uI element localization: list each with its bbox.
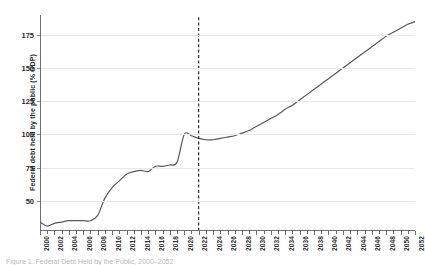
- x-tick-2024: [213, 231, 214, 235]
- x-tick-2047: [379, 231, 380, 234]
- x-tick-2011: [119, 231, 120, 234]
- x-tick-label-2038: 2038: [317, 236, 324, 251]
- x-tick-2006: [83, 231, 84, 235]
- x-tick-2027: [235, 231, 236, 234]
- x-tick-label-2012: 2012: [129, 236, 136, 251]
- y-major-tick-75: [37, 168, 40, 169]
- plot-area: [40, 15, 415, 230]
- y-tick-label-150: 150: [8, 64, 34, 73]
- x-tick-2001: [47, 231, 48, 234]
- x-tick-2035: [292, 231, 293, 234]
- gridline-125: [41, 101, 415, 102]
- x-tick-2026: [228, 231, 229, 235]
- y-tick-label-75: 75: [8, 163, 34, 172]
- y-tick-label-100: 100: [8, 130, 34, 139]
- x-tick-2041: [336, 231, 337, 234]
- x-tick-label-2000: 2000: [43, 236, 50, 251]
- x-tick-label-2026: 2026: [230, 236, 237, 251]
- x-tick-2012: [127, 231, 128, 235]
- x-tick-2048: [386, 231, 387, 235]
- gridline-175: [41, 35, 415, 36]
- x-tick-2023: [206, 231, 207, 234]
- x-tick-2039: [321, 231, 322, 234]
- x-tick-2014: [141, 231, 142, 235]
- x-tick-2000: [40, 231, 41, 235]
- gridline-100: [41, 134, 415, 135]
- x-tick-label-2046: 2046: [374, 236, 381, 251]
- x-tick-label-2034: 2034: [288, 236, 295, 251]
- y-tick-label-175: 175: [8, 30, 34, 39]
- x-tick-label-2006: 2006: [86, 236, 93, 251]
- x-tick-2032: [271, 231, 272, 235]
- x-tick-label-2004: 2004: [71, 236, 78, 251]
- gridline-150: [41, 68, 415, 69]
- x-tick-2007: [90, 231, 91, 234]
- x-tick-2008: [98, 231, 99, 235]
- x-tick-2021: [191, 231, 192, 234]
- x-tick-2037: [307, 231, 308, 234]
- y-tick-label-125: 125: [8, 97, 34, 106]
- x-tick-2022: [199, 231, 200, 235]
- x-tick-label-2002: 2002: [57, 236, 64, 251]
- figure-caption: Figure 1. Federal Debt Held by the Publi…: [6, 258, 416, 265]
- x-tick-2025: [220, 231, 221, 234]
- x-tick-label-2020: 2020: [187, 236, 194, 251]
- x-tick-2002: [54, 231, 55, 235]
- x-tick-label-2016: 2016: [158, 236, 165, 251]
- x-tick-2051: [408, 231, 409, 234]
- gridline-50: [41, 201, 415, 202]
- x-tick-2031: [264, 231, 265, 234]
- x-tick-2046: [372, 231, 373, 235]
- x-tick-label-2036: 2036: [302, 236, 309, 251]
- y-tick-label-50: 50: [8, 196, 34, 205]
- x-tick-2005: [76, 231, 77, 234]
- x-tick-2043: [350, 231, 351, 234]
- x-tick-2030: [256, 231, 257, 235]
- x-axis: [40, 230, 415, 235]
- x-tick-2034: [285, 231, 286, 235]
- y-major-tick-175: [37, 35, 40, 36]
- y-axis-tick-labels: 5075100125150175: [8, 0, 34, 265]
- y-major-tick-50: [37, 201, 40, 202]
- y-axis-spine: [40, 15, 41, 230]
- x-tick-label-2028: 2028: [245, 236, 252, 251]
- x-tick-2015: [148, 231, 149, 234]
- x-tick-2029: [249, 231, 250, 234]
- x-tick-label-2032: 2032: [273, 236, 280, 251]
- x-tick-label-2024: 2024: [216, 236, 223, 251]
- gridline-75: [41, 168, 415, 169]
- x-tick-2050: [401, 231, 402, 235]
- x-tick-label-2050: 2050: [403, 236, 410, 251]
- x-tick-label-2044: 2044: [360, 236, 367, 251]
- x-tick-label-2008: 2008: [100, 236, 107, 251]
- x-tick-2028: [242, 231, 243, 235]
- x-tick-2019: [177, 231, 178, 234]
- x-tick-2052: [415, 231, 416, 235]
- x-tick-label-2042: 2042: [345, 236, 352, 251]
- x-tick-label-2018: 2018: [172, 236, 179, 251]
- x-tick-label-2040: 2040: [331, 236, 338, 251]
- x-tick-label-2014: 2014: [144, 236, 151, 251]
- x-tick-2018: [170, 231, 171, 235]
- x-tick-2013: [134, 231, 135, 234]
- y-major-tick-150: [37, 68, 40, 69]
- x-tick-2003: [62, 231, 63, 234]
- x-tick-label-2010: 2010: [115, 236, 122, 251]
- x-tick-2038: [314, 231, 315, 235]
- x-tick-2017: [163, 231, 164, 234]
- x-tick-2036: [300, 231, 301, 235]
- x-tick-2004: [69, 231, 70, 235]
- x-tick-label-2030: 2030: [259, 236, 266, 251]
- y-major-tick-100: [37, 134, 40, 135]
- x-tick-2049: [393, 231, 394, 234]
- x-tick-label-2048: 2048: [389, 236, 396, 251]
- x-tick-2009: [105, 231, 106, 234]
- x-tick-label-2052: 2052: [418, 236, 425, 251]
- x-tick-2016: [155, 231, 156, 235]
- y-major-tick-125: [37, 101, 40, 102]
- debt-line-series: [40, 15, 415, 230]
- x-tick-2042: [343, 231, 344, 235]
- x-tick-2020: [184, 231, 185, 235]
- x-tick-2040: [328, 231, 329, 235]
